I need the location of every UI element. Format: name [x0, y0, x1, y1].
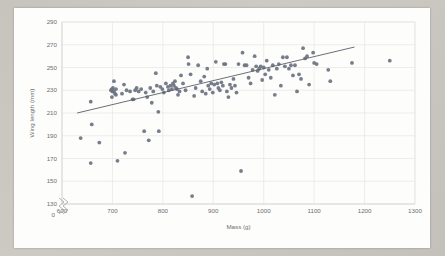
data-point — [273, 93, 277, 97]
data-point — [173, 79, 177, 83]
data-point — [305, 54, 309, 58]
data-point — [249, 82, 253, 86]
x-tick-label: 900 — [208, 207, 219, 214]
data-point — [110, 95, 114, 99]
data-point — [120, 92, 124, 96]
data-point — [125, 88, 129, 92]
data-point — [225, 89, 229, 93]
data-point — [206, 84, 210, 88]
data-point — [187, 62, 191, 66]
data-point — [289, 63, 293, 67]
trendline — [77, 47, 354, 113]
data-point — [148, 86, 152, 90]
data-point — [199, 79, 203, 83]
data-point — [230, 86, 234, 90]
chart-svg: 130150170190210230250270290 600700800900… — [14, 8, 430, 248]
data-point — [247, 76, 251, 80]
x-tick-label: 1200 — [358, 207, 372, 214]
y-axis-origin-label: 0 — [52, 211, 56, 218]
data-point — [164, 82, 168, 86]
data-point — [215, 82, 219, 86]
data-point — [265, 59, 269, 63]
y-tick-label: 290 — [47, 18, 58, 25]
data-point — [155, 84, 159, 88]
data-point — [189, 72, 193, 76]
data-point — [279, 84, 283, 88]
data-point — [350, 61, 354, 65]
data-point — [211, 91, 215, 95]
data-point — [150, 101, 154, 105]
data-point — [151, 89, 155, 93]
data-point — [291, 74, 295, 78]
data-point — [235, 91, 239, 95]
data-point — [260, 78, 264, 82]
data-point — [253, 54, 257, 58]
data-point — [228, 83, 232, 87]
x-tick-label: 800 — [158, 207, 169, 214]
data-point — [179, 74, 183, 78]
data-point — [263, 72, 267, 76]
y-axis-tick-labels: 130150170190210230250270290 — [47, 18, 58, 207]
trendline-group — [77, 47, 354, 113]
data-point — [112, 79, 116, 83]
data-point — [200, 89, 204, 93]
y-tick-label: 250 — [47, 64, 58, 71]
data-point — [311, 51, 315, 55]
data-point — [186, 55, 190, 59]
data-point — [295, 89, 299, 93]
data-point — [154, 71, 158, 75]
data-point — [245, 63, 249, 67]
chart-card: 130150170190210230250270290 600700800900… — [14, 8, 430, 248]
data-point — [283, 64, 287, 68]
data-point — [269, 76, 273, 80]
data-point — [326, 68, 330, 72]
data-point — [116, 159, 120, 163]
data-point — [233, 84, 237, 88]
data-point — [221, 84, 225, 88]
data-point — [297, 72, 301, 76]
data-point — [156, 110, 160, 114]
data-point — [89, 161, 93, 165]
data-point — [178, 89, 182, 93]
data-point — [293, 63, 297, 67]
data-point — [139, 87, 143, 91]
data-point — [194, 86, 198, 90]
data-point — [181, 82, 185, 86]
data-point — [232, 77, 236, 81]
data-points-group — [79, 46, 392, 198]
data-point — [301, 46, 305, 50]
data-point — [299, 77, 303, 81]
data-point — [144, 91, 148, 95]
data-point — [196, 63, 200, 67]
data-point — [287, 67, 291, 71]
data-point — [218, 88, 222, 92]
x-axis-tick-labels: 6007008009001000110012001300 — [57, 207, 423, 214]
data-point — [241, 51, 245, 55]
data-point — [227, 95, 231, 99]
data-point — [89, 100, 93, 104]
data-point — [254, 64, 258, 68]
data-point — [328, 79, 332, 83]
y-tick-label: 170 — [47, 155, 58, 162]
data-point — [281, 55, 285, 59]
data-point — [122, 83, 126, 87]
data-point — [123, 151, 127, 155]
x-tick-label: 1000 — [257, 207, 271, 214]
data-point — [190, 194, 194, 198]
data-point — [128, 89, 132, 93]
data-point — [208, 87, 212, 91]
data-point — [223, 62, 227, 66]
y-axis-title: Wing length (mm) — [28, 89, 35, 138]
data-point — [267, 68, 271, 72]
x-tick-label: 700 — [107, 207, 118, 214]
y-tick-label: 270 — [47, 41, 58, 48]
data-point — [237, 62, 241, 66]
y-tick-label: 150 — [47, 177, 58, 184]
x-tick-label: 1100 — [307, 207, 321, 214]
data-point — [79, 136, 83, 140]
y-tick-label: 190 — [47, 132, 58, 139]
data-point — [388, 59, 392, 63]
data-point — [192, 94, 196, 98]
data-point — [214, 60, 218, 64]
data-point — [204, 92, 208, 96]
